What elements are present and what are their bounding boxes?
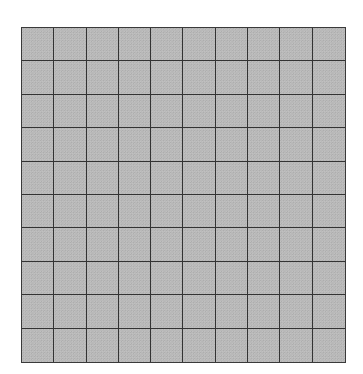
grid-cell [280,162,312,195]
grid-cell [119,95,151,128]
grid-cell [54,329,86,362]
grid-cell [119,295,151,328]
grid-cell [22,195,54,228]
grid-cell [183,329,215,362]
grid-cell [151,128,183,161]
grid-cell [151,61,183,94]
grid-cell [183,195,215,228]
grid-cell [280,262,312,295]
grid-cell [248,228,280,261]
grid-cell [54,95,86,128]
grid-cell [87,28,119,61]
square-grid [21,27,346,363]
grid-cell [119,61,151,94]
grid-cell [151,262,183,295]
grid-cell [248,128,280,161]
grid-cell [313,329,345,362]
grid-cell [183,228,215,261]
grid-cell [280,128,312,161]
grid-cell [151,195,183,228]
grid-cell [248,195,280,228]
grid-cell [216,195,248,228]
grid-cell [22,128,54,161]
grid-cell [22,95,54,128]
grid-cell [22,162,54,195]
grid-cell [151,329,183,362]
grid-cell [183,262,215,295]
grid-cell [216,95,248,128]
grid-cell [248,329,280,362]
grid-cell [248,295,280,328]
grid-cell [183,28,215,61]
grid-cell [216,128,248,161]
grid-cell [119,228,151,261]
grid-cell [87,295,119,328]
grid-cell [87,162,119,195]
grid-cell [313,128,345,161]
grid-cell [280,228,312,261]
grid-cell [54,228,86,261]
grid-cell [248,95,280,128]
grid-cell [313,28,345,61]
grid-cell [151,295,183,328]
grid-cell [87,95,119,128]
grid-cell [280,95,312,128]
grid-cell [313,262,345,295]
grid-cell [216,28,248,61]
grid-cell [22,262,54,295]
grid-cell [87,128,119,161]
grid-cell [313,295,345,328]
grid-cell [119,28,151,61]
grid-cell [22,295,54,328]
grid-cell [216,228,248,261]
grid-cell [216,61,248,94]
grid-cell [151,95,183,128]
grid-cell [183,295,215,328]
grid-cell [280,195,312,228]
grid-cell [183,128,215,161]
grid-cell [183,61,215,94]
grid-cell [22,329,54,362]
grid-cell [248,262,280,295]
grid-cell [216,262,248,295]
grid-cell [54,162,86,195]
grid-cell [248,61,280,94]
grid-cell [87,61,119,94]
grid-cell [119,128,151,161]
grid-cell [183,95,215,128]
grid-cell [280,295,312,328]
grid-cell [119,162,151,195]
grid-cell [119,195,151,228]
grid-cell [87,228,119,261]
grid-cell [280,28,312,61]
grid-cell [151,162,183,195]
grid-cell [216,329,248,362]
grid-cell [183,162,215,195]
grid-cell [216,295,248,328]
grid-cell [22,61,54,94]
grid-cell [119,329,151,362]
grid-cell [313,195,345,228]
grid-cell [87,262,119,295]
grid-cell [22,228,54,261]
grid-cell [54,61,86,94]
grid-cell [151,228,183,261]
grid-cell [313,228,345,261]
grid-cell [22,28,54,61]
grid-cell [54,295,86,328]
grid-cell [248,162,280,195]
grid-cell [54,262,86,295]
grid-cell [87,195,119,228]
grid-cell [280,329,312,362]
grid-cell [119,262,151,295]
grid-cell [248,28,280,61]
grid-cell [87,329,119,362]
grid-cell [54,195,86,228]
grid-cell [216,162,248,195]
grid-cell [313,95,345,128]
grid-cell [313,162,345,195]
grid-cell [280,61,312,94]
grid-cell [313,61,345,94]
grid-cell [151,28,183,61]
grid-cell [54,128,86,161]
